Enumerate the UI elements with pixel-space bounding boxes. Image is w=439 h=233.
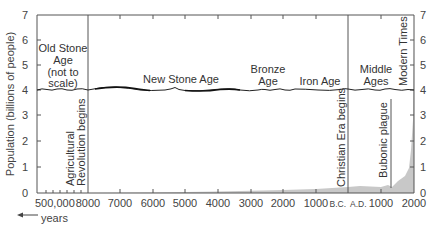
svg-text:3: 3 [420,109,426,121]
svg-text:7000: 7000 [108,197,132,209]
svg-text:Age: Age [258,75,278,87]
svg-text:2000: 2000 [271,197,295,209]
svg-text:0: 0 [22,187,28,199]
svg-text:500,000: 500,000 [35,197,75,209]
y-axis-title: Population (billions of people) [4,32,16,176]
era-wavy-line-thick [95,87,240,91]
years-label: years [41,212,68,224]
era-iron-age: Iron Age [300,75,341,87]
era-modern-times: Modern Times [397,16,409,86]
x-ticks-top [120,15,381,19]
svg-text:2: 2 [420,135,426,147]
population-chart: 7 6 5 4 3 2 1 0 7 6 5 4 3 2 1 0 Populati… [0,0,439,233]
annotation-bubonic-plague: Bubonic plague [377,102,389,178]
svg-text:Revolution begins: Revolution begins [75,98,87,186]
svg-text:Bronze: Bronze [251,63,286,75]
svg-text:Middle: Middle [360,63,392,75]
svg-text:4000: 4000 [206,197,230,209]
y-ticks-left [37,40,41,167]
era-bronze-age: Bronze Age [251,63,286,87]
svg-text:6: 6 [420,34,426,46]
svg-text:scale): scale) [48,77,77,89]
svg-text:B.C.: B.C. [329,199,346,209]
svg-text:6: 6 [22,34,28,46]
arrow-left-icon [17,213,23,218]
svg-text:1000: 1000 [304,197,328,209]
svg-text:5: 5 [420,59,426,71]
svg-text:5: 5 [22,59,28,71]
svg-text:3000: 3000 [239,197,263,209]
era-old-stone-age: Old Stone Age (not to scale) [39,42,88,89]
svg-text:4: 4 [22,84,28,96]
y-tick-labels-left: 7 6 5 4 3 2 1 0 [22,9,28,199]
y-tick-labels-right: 7 6 5 4 3 2 1 0 [420,9,426,199]
svg-text:Age: Age [53,54,73,66]
svg-text:2000: 2000 [402,197,426,209]
annotation-christian-era: Christian Era begins [335,87,347,187]
svg-text:2: 2 [22,135,28,147]
svg-text:7: 7 [22,9,28,21]
svg-text:1: 1 [22,161,28,173]
svg-text:5000: 5000 [173,197,197,209]
x-tick-labels: 500,000 8000 7000 6000 5000 4000 3000 20… [35,197,426,209]
svg-text:3: 3 [22,109,28,121]
svg-text:8000: 8000 [76,197,100,209]
svg-text:6000: 6000 [141,197,165,209]
svg-text:4: 4 [420,84,426,96]
svg-text:7: 7 [420,9,426,21]
svg-text:1: 1 [420,161,426,173]
era-new-stone-age: New Stone Age [143,73,219,85]
svg-text:Old Stone: Old Stone [39,42,88,54]
svg-text:Ages: Ages [363,75,389,87]
era-middle-ages: Middle Ages [360,63,392,87]
annotation-agricultural-revolution: Agricultural Revolution begins [64,98,87,186]
svg-text:A.D.: A.D. [350,199,367,209]
svg-text:1000: 1000 [369,197,393,209]
